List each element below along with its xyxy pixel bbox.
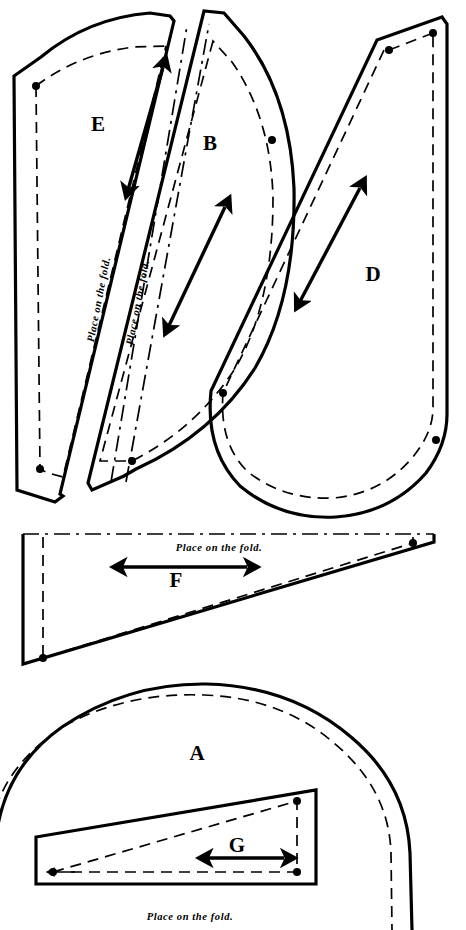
pattern-piece-f: Place on the fold. F (23, 534, 434, 664)
piece-e-letter: E (91, 112, 105, 136)
piece-b-match-dot-right (268, 136, 276, 144)
piece-b-fold-label: Place on the fold. (124, 259, 151, 346)
piece-b-letter: B (203, 131, 217, 155)
piece-b-fold-line (126, 24, 209, 482)
piece-d-match-dot-left-top (385, 46, 393, 54)
piece-e-grainline-arrow (126, 67, 163, 197)
piece-d-cutting-line (210, 17, 447, 517)
piece-b-match-dot-bottom (128, 457, 136, 465)
piece-d-match-dot-right-top (429, 29, 437, 37)
piece-g-match-dot-bottom-right (293, 868, 301, 876)
piece-d-letter: D (365, 262, 380, 286)
piece-g-match-dot-top-right (293, 797, 301, 805)
piece-e-match-dot-bottom (36, 465, 44, 473)
piece-e-seam-line-top (36, 46, 166, 86)
piece-b-seam-line (100, 41, 273, 461)
piece-d-seam-line (223, 33, 433, 498)
piece-d-match-dot-left-bottom (219, 389, 227, 397)
piece-g-letter: G (229, 833, 245, 857)
pattern-piece-d: D (210, 17, 447, 517)
pattern-layout-page: Place on the fold. E Place on the fold. … (0, 0, 466, 930)
pattern-layout-diagram: Place on the fold. E Place on the fold. … (0, 0, 466, 930)
piece-e-fold-line (111, 26, 187, 482)
piece-a-letter: A (189, 741, 205, 765)
piece-f-fold-label: Place on the fold. (176, 542, 263, 553)
piece-d-grainline-arrow (296, 188, 360, 309)
piece-e-match-dot-top (32, 82, 40, 90)
pattern-piece-g: G (36, 790, 316, 884)
piece-b-grainline-arrow (165, 207, 225, 334)
piece-d-match-dot-right-bottom (432, 436, 440, 444)
piece-g-seam-line (53, 801, 297, 872)
piece-f-match-dot-left (39, 654, 47, 662)
piece-a-fold-label: Place on the fold. (147, 911, 234, 922)
piece-g-match-dot-left (49, 868, 57, 876)
piece-f-letter: F (170, 568, 183, 592)
piece-f-match-dot-right (409, 539, 417, 547)
piece-f-seam-line (43, 537, 413, 658)
